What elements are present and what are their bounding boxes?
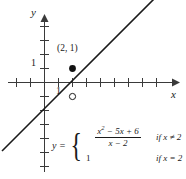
equation-case-1: x2 − 5x + 6 x − 2 if x ≠ 2: [86, 127, 182, 149]
equation-left-hand-side: y =: [52, 140, 66, 151]
x-axis: [8, 79, 180, 87]
case-1-value: x2 − 5x + 6 x − 2: [86, 127, 150, 149]
fraction-denominator: x − 2: [106, 138, 129, 148]
filled-point: [69, 65, 76, 72]
y-axis: [41, 14, 49, 172]
x-axis-tick-label-1: 1: [56, 86, 61, 96]
case-2-value: 1: [86, 154, 150, 164]
case-2-constant: 1: [86, 154, 150, 164]
point-coordinate-label: (2, 1): [57, 44, 78, 54]
equation-cases: x2 − 5x + 6 x − 2 if x ≠ 2 1 if x = 2: [86, 127, 182, 164]
fraction-numerator: x2 − 5x + 6: [95, 127, 140, 137]
curly-brace-icon: {: [70, 133, 81, 157]
y-axis-label: y: [31, 7, 36, 18]
y-axis-tick-label-1: 1: [31, 58, 36, 68]
x-axis-label: x: [171, 89, 176, 100]
fraction: x2 − 5x + 6 x − 2: [95, 127, 140, 149]
piecewise-function-equation: y = { x2 − 5x + 6 x − 2 if x ≠ 2 1 if x …: [52, 127, 182, 164]
case-1-condition: if x ≠ 2: [156, 133, 181, 143]
open-circle-hole: [69, 93, 75, 99]
equation-case-2: 1 if x = 2: [86, 154, 182, 164]
numerator-remainder: − 5x + 6: [105, 126, 139, 136]
case-2-condition: if x = 2: [156, 154, 182, 164]
function-graph-figure: y x 1 1 (2, 1) y = { x2 − 5x + 6 x − 2 i…: [0, 0, 186, 179]
